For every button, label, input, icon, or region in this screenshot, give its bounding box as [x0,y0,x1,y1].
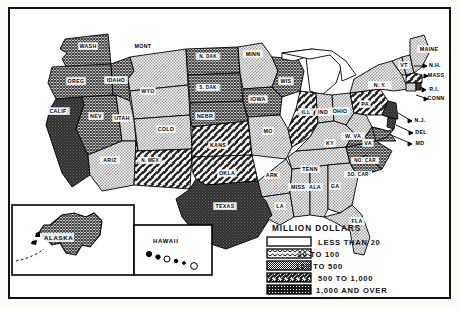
state-mo[interactable] [248,115,292,159]
state-label-iowa: IOWA [248,95,268,103]
state-label-calif: CALIF [46,107,70,115]
state-label-la: LA [274,202,285,210]
figure-frame: WASHOREGCALIFNEVIDAHOMONTWYOUTAHARIZCOLO… [8,7,451,299]
state-abbr: W. VA [345,133,361,139]
state-label-mass: MASS [426,71,446,79]
state-abbr: N.J. [415,117,426,123]
state-label-va: VA [362,139,373,147]
state-mt[interactable] [128,49,188,91]
state-wy[interactable] [130,85,190,119]
state-abbr: KANS [210,142,226,148]
state-nd[interactable] [186,47,240,75]
state-wi[interactable] [272,57,304,97]
state-label-ark: ARK [264,171,279,179]
state-abbr: CONN [428,95,445,101]
state-label-nev: NEV [88,112,103,120]
state-label-wis: WIS [278,77,293,85]
state-label-vt: VT [398,61,409,69]
state-ms[interactable] [290,167,310,217]
state-ct[interactable] [406,83,416,91]
state-label-miss: MISS [288,183,308,191]
legend-label-1: 20 TO 100 [298,250,341,259]
legend-row-0[interactable]: LESS THAN 20 [267,237,381,247]
state-abbr: WYO [141,88,155,94]
state-label-ariz: ARIZ [100,156,120,164]
state-abbr: TEXAS [215,203,234,209]
state-label-ky: KY [324,139,335,147]
legend-row-1[interactable]: 20 TO 100 [267,249,340,259]
state-abbr: UTAH [114,115,130,121]
state-label-tenn: TENN [300,165,320,173]
state-label-colo: COLO [156,125,176,133]
legend-label-4: 1,000 AND OVER [316,286,387,295]
state-label-utah: UTAH [112,114,132,122]
legend-label-3: 500 TO 1,000 [318,274,373,283]
state-abbr: ARK [266,172,278,178]
state-abbr: VT [400,62,408,68]
legend-label-2: 100 TO 500 [296,262,343,271]
legend-label-0: LESS THAN 20 [318,238,381,247]
legend-swatch-diagonal [267,273,311,282]
state-label-nj: N.J. [410,116,430,124]
state-abbr: WASH [79,43,96,49]
state-abbr: GA [331,183,340,189]
legend-row-3[interactable]: 500 TO 1,000 [267,273,373,283]
state-abbr: IOWA [250,96,265,102]
state-abbr: SO. CAR [347,172,369,177]
inset-alaska[interactable]: ALASKA [12,205,134,275]
state-abbr: COLO [158,126,175,132]
state-abbr: KY [326,140,334,146]
state-label-ny: N. Y. [368,81,392,89]
legend-row-4[interactable]: 1,000 AND OVER [267,285,387,295]
alaska-label: ALASKA [44,235,73,241]
state-abbr: VA [364,140,372,146]
state-label-minn: MINN [243,50,263,58]
state-abbr: PA [361,101,369,107]
state-abbr: ALA [309,184,321,190]
state-ma[interactable] [406,73,422,83]
state-label-socar: SO. CAR [344,171,372,178]
state-label-ri: R.I. [424,85,444,93]
state-de[interactable] [387,117,396,129]
state-abbr: N. MEX [141,158,159,163]
state-abbr: MD [416,140,425,146]
hawaii-label: HAWAII [153,238,179,244]
state-label-wva: W. VA [341,132,365,140]
state-label-kans: KANS [208,141,228,149]
state-abbr: OKLA [219,170,235,176]
state-abbr: WIS [281,78,292,84]
state-label-ala: ALA [307,183,322,191]
state-abbr: MASS [428,72,445,78]
state-label-sdak: S. DAK [196,84,221,91]
state-label-pa: PA [359,100,370,108]
inset-hawaii[interactable]: HAWAII [134,225,212,275]
state-abbr: NEBR [197,113,213,119]
state-ri[interactable] [416,83,421,90]
state-abbr: N. DAK [199,54,217,59]
state-abbr: IND [318,109,328,115]
state-abbr: MISS [291,184,305,190]
state-label-nh: N.H. [425,61,445,69]
state-abbr: LA [276,203,284,209]
state-label-mont: MONT [133,42,153,50]
state-abbr: NO. CAR [354,158,376,163]
state-label-md: MD [414,139,425,147]
state-mn[interactable] [238,43,278,89]
state-label-okla: OKLA [217,169,237,177]
legend-swatch-solid-dark [267,285,311,294]
map-figure: WASHOREGCALIFNEVIDAHOMONTWYOUTAHARIZCOLO… [0,0,459,309]
legend-swatch-blank [267,237,311,246]
state-label-nmex: N. MEX [138,157,163,164]
state-abbr: ILL [302,109,311,115]
state-abbr: OHIO [333,108,348,114]
state-label-nebr: NEBR [195,112,215,120]
state-label-oreg: OREG [66,77,86,85]
state-label-ill: ILL [298,108,313,116]
us-choropleth-map: WASHOREGCALIFNEVIDAHOMONTWYOUTAHARIZCOLO… [10,9,448,296]
state-label-idaho: IDAHO [104,76,128,84]
legend-row-2[interactable]: 100 TO 500 [267,261,343,271]
state-label-ind: IND [315,108,330,116]
state-label-mo: MO [262,127,273,135]
state-abbr: N. Y. [374,82,387,88]
state-ks[interactable] [192,121,252,157]
